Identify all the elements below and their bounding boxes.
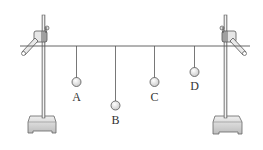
pendulum-b: B (111, 46, 120, 127)
left-stand (22, 15, 57, 133)
pendulum-a-bob (72, 78, 81, 87)
left-rod (42, 15, 45, 118)
pendulum-d-label: D (190, 79, 199, 93)
right-rod (224, 15, 227, 118)
pendulum-c-bob (150, 78, 159, 87)
pendulum-d: D (190, 46, 199, 93)
pendulum-c-label: C (150, 90, 158, 104)
pendulum-b-label: B (111, 113, 119, 127)
pendulum-c: C (150, 46, 159, 104)
pendulum-b-bob (111, 101, 120, 110)
pendulum-a: A (72, 46, 81, 104)
right-stand (213, 15, 247, 134)
left-base (28, 116, 56, 133)
pendulum-d-bob (190, 68, 199, 77)
pendulum-diagram: A B C D (0, 0, 263, 150)
pendulum-a-label: A (72, 90, 81, 104)
right-base (213, 116, 242, 134)
